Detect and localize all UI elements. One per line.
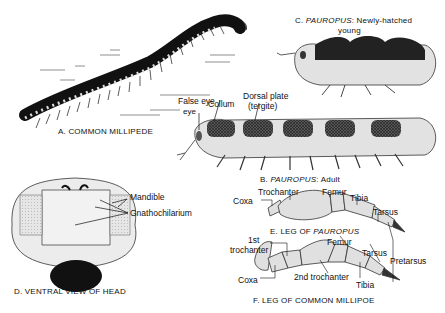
caption-e: E. LEG OF PAUROPUS — [270, 227, 359, 236]
pauropus-young-drawing — [277, 36, 436, 97]
caption-b-suffix: : Adult — [316, 175, 340, 184]
caption-c-prefix: C. — [295, 16, 306, 25]
diagram-drawing — [0, 0, 445, 313]
label-tibia-e: Tibia — [350, 194, 368, 203]
label-1st: 1st — [248, 236, 259, 245]
label-coxa-e: Coxa — [233, 197, 253, 206]
label-tarsus-f: Tarsus — [362, 249, 387, 258]
label-pretarsus: Pretarsus — [390, 257, 426, 266]
ventral-head-drawing — [12, 178, 136, 292]
millipede-pauropus-diagram: A. COMMON MILLIPEDE C. PAUROPUS: Newly-h… — [0, 0, 445, 313]
label-femur-f: Femur — [327, 238, 352, 247]
pauropus-adult-drawing — [177, 100, 436, 170]
caption-e-genus: PAUROPUS — [313, 227, 359, 236]
caption-d: D. VENTRAL VIEW OF HEAD — [14, 287, 126, 296]
caption-b: B. PAUROPUS: Adult — [260, 175, 340, 184]
caption-a: A. COMMON MILLIPEDE — [58, 127, 153, 136]
label-mandible: Mandible — [130, 193, 165, 202]
caption-c-suffix: : Newly-hatched — [352, 16, 412, 25]
label-1st-trochanter: trochanter — [230, 246, 268, 255]
label-femur-e: Femur — [322, 188, 347, 197]
caption-b-prefix: B. — [260, 175, 270, 184]
label-tibia-f: Tibia — [356, 281, 374, 290]
label-tarsus-e: Tarsus — [373, 208, 398, 217]
label-2nd-trochanter: 2nd trochanter — [294, 273, 349, 282]
caption-c: C. PAUROPUS: Newly-hatched — [295, 16, 412, 25]
caption-f: F. LEG OF COMMON MILLIPOE — [253, 296, 374, 305]
label-collum: Collum — [208, 100, 234, 109]
common-millipede-drawing — [25, 20, 246, 128]
label-gnathochilarium: Gnathochilarium — [130, 209, 192, 218]
label-dorsal-plate: Dorsal plate — [243, 92, 288, 101]
caption-c-genus: PAUROPUS — [306, 16, 352, 25]
label-false-eye-line2: eye — [183, 108, 196, 116]
caption-b-genus: PAUROPUS — [270, 175, 316, 184]
label-trochanter: Trochanter — [258, 188, 299, 197]
label-tergite: (tergite) — [248, 102, 277, 111]
caption-c-line2: young — [338, 26, 361, 35]
caption-e-prefix: E. LEG OF — [270, 227, 313, 236]
label-coxa-f: Coxa — [238, 276, 258, 285]
